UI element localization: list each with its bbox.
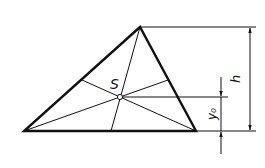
centroid-height-label: y₀ xyxy=(205,108,219,121)
centroid-point xyxy=(117,94,122,99)
centroid-label: S xyxy=(110,76,119,92)
median-from-A xyxy=(24,80,168,131)
height-label: h xyxy=(228,75,243,83)
median-from-B xyxy=(82,80,196,131)
triangle-centroid-diagram: S h y₀ xyxy=(0,0,265,168)
